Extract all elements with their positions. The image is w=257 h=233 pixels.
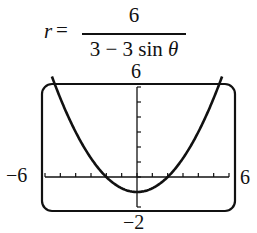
axes <box>45 87 229 207</box>
calculator-screen <box>0 0 257 233</box>
